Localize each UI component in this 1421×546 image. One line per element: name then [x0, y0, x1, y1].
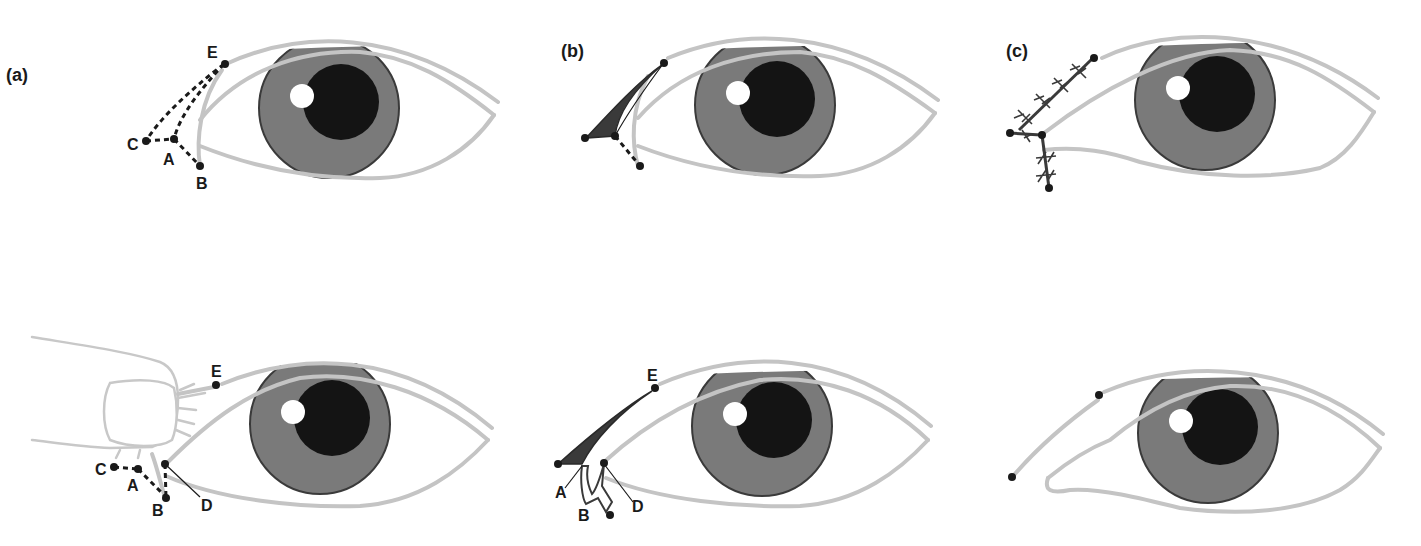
marker-D: [600, 459, 608, 467]
panel-b-bottom: E A B D: [554, 356, 931, 524]
label-E: E: [211, 363, 222, 380]
suture-line-upper: [1019, 58, 1093, 130]
skin-flap-upper: [558, 391, 652, 464]
label-D: D: [201, 497, 213, 514]
marker-C: [110, 463, 118, 471]
label-C: C: [95, 461, 107, 478]
marker-A: [1038, 131, 1046, 139]
marker-D: [161, 460, 169, 468]
marker-B: [1045, 184, 1053, 192]
panel-a-bottom: E C A B D: [32, 337, 492, 519]
marker-B: [606, 511, 614, 519]
marker-E: [1095, 391, 1103, 399]
iris-icon: [259, 38, 399, 178]
marker-E: [660, 59, 668, 67]
label-E: E: [647, 367, 658, 384]
leader-D: [165, 464, 200, 497]
marker-E: [1090, 54, 1098, 62]
marker-C: [554, 460, 562, 468]
incision-line-CA: [146, 139, 174, 141]
lower-lid-crease: [1014, 400, 1098, 475]
panel-c-top: (c): [1006, 30, 1378, 192]
panel-b-top: (b): [561, 35, 938, 176]
label-A: A: [163, 151, 175, 168]
incision-line-DB: [165, 464, 166, 497]
marker-C: [1006, 129, 1014, 137]
iris-icon: [692, 356, 832, 496]
marker-B: [162, 494, 170, 502]
marker-A: [170, 135, 178, 143]
panel-a-top: (a) E C A B: [6, 38, 498, 192]
skin-flap: [586, 64, 663, 138]
panel-label-c: (c): [1006, 41, 1028, 61]
label-A: A: [555, 484, 567, 501]
marker-C: [581, 134, 589, 142]
iris-icon: [1138, 363, 1278, 503]
label-B: B: [578, 507, 590, 524]
marker-B: [636, 162, 644, 170]
panel-label-a: (a): [6, 65, 28, 85]
marker-A: [611, 132, 619, 140]
marker-E: [221, 60, 229, 68]
marker-B: [196, 162, 204, 170]
marker-C: [1008, 473, 1016, 481]
panel-c-bottom: [1008, 363, 1383, 512]
leader-A: [565, 466, 582, 488]
incision-line-EC: [146, 64, 224, 141]
label-C: C: [127, 136, 139, 153]
label-B: B: [152, 502, 164, 519]
incision-line-AB: [174, 139, 200, 166]
label-D: D: [632, 498, 644, 515]
finger-icon: [32, 337, 205, 458]
label-B: B: [196, 175, 208, 192]
eyelid-surgery-figure: (a) E C A B (b): [0, 0, 1421, 546]
label-A: A: [127, 477, 139, 494]
label-E: E: [207, 44, 218, 61]
marker-A: [134, 465, 142, 473]
panel-label-b: (b): [561, 41, 584, 61]
marker-E: [212, 381, 220, 389]
marker-E: [651, 384, 659, 392]
marker-C: [142, 137, 150, 145]
skin-flap-lower: [581, 464, 612, 512]
